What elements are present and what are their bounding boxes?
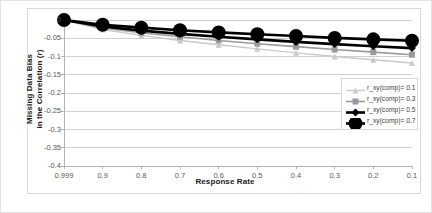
legend-item[interactable]: r_xy(comp)= 0.3 [345,93,415,104]
data-point-marker [289,29,303,43]
legend-label: r_xy(comp)= 0.3 [366,95,416,102]
y-axis-title-line2-end: ) [35,49,44,52]
y-axis-tick-label: -0.35 [27,143,61,152]
data-point-marker [349,118,363,129]
legend-item[interactable]: r_xy(comp)= 0.7 [345,115,415,126]
chart-plot-frame: 0-0.05-0.1-0.15-0.2-0.25-0.3-0.35-0.4 0.… [27,8,421,194]
data-point-marker [409,52,415,58]
legend-label: r_xy(comp)= 0.7 [366,117,416,124]
y-axis-title-line1: Missing Data Bias [25,54,34,124]
legend-label: r_xy(comp)= 0.1 [366,84,416,91]
data-point-marker [96,18,110,32]
chart-figure: 0-0.05-0.1-0.15-0.2-0.25-0.3-0.35-0.4 0.… [0,0,432,213]
data-point-marker [173,23,187,37]
y-axis-title: Missing Data Bias in the Correlation (r) [25,35,45,143]
data-point-marker [328,31,342,45]
legend-item[interactable]: r_xy(comp)= 0.1 [345,82,415,93]
data-point-marker [405,34,419,48]
chart-legend: r_xy(comp)= 0.1r_xy(comp)= 0.3r_xy(comp)… [341,78,418,130]
data-point-marker [250,27,264,41]
legend-marker-diamond-icon [345,104,366,115]
series-layer [57,13,419,66]
data-point-marker [212,25,226,39]
legend-item[interactable]: r_xy(comp)= 0.5 [345,104,415,115]
y-axis-title-line2: in the Correlation ( [35,55,44,128]
y-axis-tick-label: 0 [27,15,61,24]
y-axis-title-italic-r: r [35,52,44,55]
y-axis-tick-label: -0.4 [27,161,61,170]
data-point-marker [134,21,148,35]
legend-label: r_xy(comp)= 0.5 [366,106,416,113]
x-axis-title: Response Rate [28,177,422,186]
legend-marker-triangle-icon [345,82,366,93]
legend-marker-circle-icon [345,115,366,126]
legend-marker-square-icon [345,93,366,104]
data-point-marker [366,32,380,46]
